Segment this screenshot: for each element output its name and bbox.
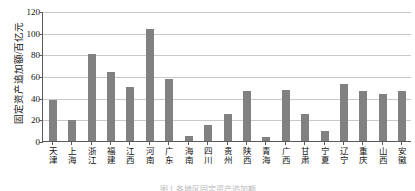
x-tick-label: 青海 <box>260 147 269 165</box>
x-tick-mark <box>91 142 92 145</box>
x-tick-label: 贵州 <box>222 147 231 165</box>
x-tick-mark <box>71 142 72 145</box>
bar <box>301 114 309 141</box>
x-tick-label: 海南 <box>183 147 192 165</box>
bar <box>107 72 115 141</box>
y-axis-tick-labels: 020406080100120 <box>14 12 40 142</box>
y-tick-label: 40 <box>14 94 40 103</box>
bar <box>204 125 212 141</box>
x-tick-label: 天津 <box>47 147 56 165</box>
x-tick-mark <box>265 142 266 145</box>
x-tick-mark <box>207 142 208 145</box>
x-tick-label: 江西 <box>124 147 133 165</box>
bar <box>282 90 290 141</box>
x-tick-mark <box>324 142 325 145</box>
x-tick-label: 河南 <box>144 147 153 165</box>
x-tick-mark <box>168 142 169 145</box>
x-tick-mark <box>227 142 228 145</box>
x-tick-label: 上海 <box>66 147 75 165</box>
y-tick-label: 0 <box>14 138 40 147</box>
x-tick-label: 重庆 <box>357 147 366 165</box>
bar <box>398 91 406 141</box>
bar <box>185 136 193 141</box>
y-tick-label: 100 <box>14 29 40 38</box>
x-tick-mark <box>246 142 247 145</box>
x-tick-mark <box>188 142 189 145</box>
x-tick-mark <box>129 142 130 145</box>
figure-caption: 图 1 各地区固定资产追加额 <box>0 183 415 191</box>
x-tick-label: 陕西 <box>241 147 250 165</box>
x-tick-label: 广西 <box>280 147 289 165</box>
x-tick-label: 宁夏 <box>319 147 328 165</box>
x-tick-mark <box>304 142 305 145</box>
x-tick-label: 四川 <box>202 147 211 165</box>
x-tick-label: 广东 <box>163 147 172 165</box>
bar <box>321 131 329 141</box>
x-tick-label: 浙江 <box>86 147 95 165</box>
bar <box>146 29 154 141</box>
x-tick-mark <box>149 142 150 145</box>
bar <box>340 84 348 141</box>
bar <box>68 120 76 141</box>
bar <box>359 91 367 141</box>
x-tick-mark <box>52 142 53 145</box>
bar <box>224 114 232 141</box>
bar <box>379 94 387 141</box>
x-tick-mark <box>362 142 363 145</box>
x-tick-label: 福建 <box>105 147 114 165</box>
y-tick-label: 60 <box>14 73 40 82</box>
bar <box>49 100 57 141</box>
x-tick-mark <box>343 142 344 145</box>
bar-chart-figure: 固定资产追加额/百亿元 020406080100120 天津上海浙江福建江西河南… <box>0 0 415 191</box>
y-tick-label: 80 <box>14 51 40 60</box>
x-tick-label: 辽宁 <box>338 147 347 165</box>
x-tick-mark <box>110 142 111 145</box>
bar <box>243 91 251 141</box>
bar <box>165 79 173 141</box>
x-tick-mark <box>285 142 286 145</box>
bar-series <box>43 12 411 141</box>
bar <box>88 54 96 141</box>
x-tick-mark <box>382 142 383 145</box>
y-tick-label: 120 <box>14 8 40 17</box>
x-tick-label: 甘肃 <box>299 147 308 165</box>
bar <box>126 87 134 141</box>
x-tick-label: 安徽 <box>396 147 405 165</box>
x-tick-label: 山西 <box>377 147 386 165</box>
bar <box>262 137 270 141</box>
x-tick-mark <box>401 142 402 145</box>
plot-area <box>42 12 411 142</box>
y-tick-label: 20 <box>14 116 40 125</box>
